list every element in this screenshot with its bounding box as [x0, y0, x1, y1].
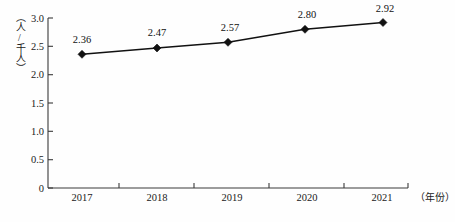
data-label-2021: 2.92 [376, 3, 394, 14]
x-tick-label-2018: 2018 [147, 192, 168, 203]
y-tick-label-1.5: 1.5 [31, 98, 44, 109]
y-tick-label-0.5: 0.5 [31, 154, 44, 165]
y-tick-label-2.5: 2.5 [31, 41, 44, 52]
data-point-2020[interactable] [301, 25, 309, 33]
x-tick-label-2019: 2019 [222, 192, 243, 203]
x-tick-label-2021: 2021 [372, 192, 393, 203]
data-label-2020: 2.80 [298, 9, 316, 20]
x-axis-title: （年份） [415, 191, 455, 203]
line-chart-plot: 3.0 2.5 2.0 1.5 1.0 0.5 0 2017 2018 2019… [0, 0, 455, 222]
data-point-2018[interactable] [153, 44, 161, 52]
data-label-2018: 2.47 [148, 27, 166, 38]
data-point-2021[interactable] [379, 19, 387, 27]
x-axis-ticks [119, 183, 408, 188]
y-tick-label-3.0: 3.0 [31, 13, 44, 24]
chart-container: （人/千人） 3.0 2.5 2.0 1.5 1.0 0.5 0 [0, 0, 455, 222]
y-tick-label-0: 0 [39, 183, 44, 194]
data-point-2019[interactable] [224, 38, 232, 46]
x-tick-label-2017: 2017 [72, 192, 93, 203]
data-point-2017[interactable] [78, 50, 86, 58]
y-axis-ticks [48, 18, 53, 188]
x-tick-label-2020: 2020 [297, 192, 318, 203]
y-tick-label-2.0: 2.0 [31, 69, 44, 80]
y-tick-label-1.0: 1.0 [31, 126, 44, 137]
data-label-2017: 2.36 [73, 34, 91, 45]
data-label-2019: 2.57 [221, 22, 239, 33]
